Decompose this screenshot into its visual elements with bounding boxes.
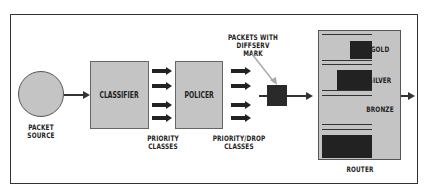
fat-arrow <box>152 84 166 88</box>
arrow-line <box>259 95 267 97</box>
policer-label: POLICER <box>184 91 213 100</box>
queue-label-bronze: BRONZE <box>363 106 397 114</box>
fat-arrow <box>152 69 166 73</box>
fat-arrow <box>231 103 245 107</box>
queue-label-silver: SILVER <box>363 77 397 85</box>
queue-border <box>322 60 372 61</box>
label-line: SOURCE <box>20 132 63 140</box>
queue-border <box>322 95 372 96</box>
queue-border <box>322 129 372 130</box>
fat-arrow-head-icon <box>166 114 172 122</box>
queue-border <box>322 34 372 35</box>
policer-box: POLICER <box>175 61 223 129</box>
label-line: CLASSES <box>143 143 182 151</box>
classifier-box: CLASSIFIER <box>90 61 149 129</box>
fat-arrow-head-icon <box>245 101 251 109</box>
queue-border <box>322 64 372 65</box>
classifier-label: CLASSIFIER <box>100 91 139 100</box>
packet-source-label: PACKET SOURCE <box>20 124 63 140</box>
arrow-line <box>287 95 307 97</box>
fat-arrow-head-icon <box>166 82 172 90</box>
arrow-line <box>64 94 84 96</box>
queue-label-gold: GOLD <box>363 46 397 54</box>
fat-arrow <box>152 103 166 107</box>
label-line: CLASSES <box>213 143 266 151</box>
fat-arrow-head-icon <box>245 114 251 122</box>
fat-arrow-head-icon <box>166 101 172 109</box>
fat-arrow-head-icon <box>166 67 172 75</box>
fat-arrow <box>231 69 245 73</box>
queue-border <box>322 90 372 91</box>
arrow-head-icon <box>83 91 90 99</box>
queue-border <box>322 124 372 125</box>
pointer-arrow-icon <box>250 52 280 87</box>
queue-lowest <box>322 129 372 159</box>
router-label: ROUTER <box>343 166 377 174</box>
priority-classes-label: PRIORITY CLASSES <box>143 135 182 151</box>
priority-drop-classes-label: PRIORITY/DROP CLASSES <box>213 135 266 151</box>
arrow-head-icon <box>408 92 415 100</box>
marked-packet-block <box>267 85 287 106</box>
fat-arrow <box>231 84 245 88</box>
queue-fill <box>322 135 372 158</box>
fat-arrow <box>231 116 245 120</box>
packet-source-node <box>18 71 64 117</box>
fat-arrow <box>152 116 166 120</box>
arrow-head-icon <box>306 92 313 100</box>
